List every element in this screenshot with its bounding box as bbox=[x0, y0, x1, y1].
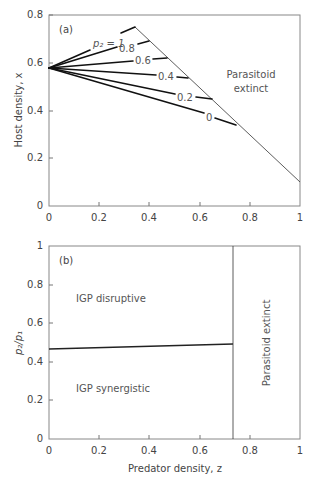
fan-lines bbox=[49, 27, 236, 125]
plot-frame-a bbox=[49, 15, 300, 206]
y-tick-label: 0 bbox=[37, 200, 43, 211]
region-label-parasitoid-extinct-a: extinct bbox=[234, 83, 268, 94]
panel-b: 1 0.8 0.6 0.4 0.2 0 0 0.2 0.4 0.6 0.8 1 … bbox=[13, 240, 303, 474]
y-tick-label: 0.2 bbox=[27, 394, 43, 405]
extinction-boundary-line bbox=[135, 27, 300, 182]
x-tick-label: 0.8 bbox=[242, 212, 258, 223]
line-p2-0.6 bbox=[153, 58, 167, 59]
line-p2-0.4 bbox=[177, 77, 188, 78]
panel-label-b: (b) bbox=[59, 255, 73, 266]
x-tick-label: 0.2 bbox=[91, 212, 107, 223]
x-tick-label: 0.2 bbox=[91, 445, 107, 456]
figure: 0.8 0.6 0.4 0.2 0 0 0.2 0.4 0.6 0.8 1 Ho… bbox=[0, 0, 316, 483]
igp-boundary-line bbox=[49, 344, 233, 349]
x-tick-label: 0.4 bbox=[141, 445, 157, 456]
y-tick-label: 0.4 bbox=[27, 105, 43, 116]
x-axis-b: 0 0.2 0.4 0.6 0.8 1 bbox=[46, 435, 303, 456]
x-tick-label: 0.8 bbox=[242, 445, 258, 456]
x-tick-label: 1 bbox=[297, 445, 303, 456]
fan-label-0.2: 0.2 bbox=[177, 92, 193, 103]
y-axis-title-a: Host density, x bbox=[13, 72, 24, 147]
x-tick-label: 0.6 bbox=[192, 212, 208, 223]
fan-label-0.6: 0.6 bbox=[135, 55, 151, 66]
region-label-igp-disruptive: IGP disruptive bbox=[76, 293, 146, 304]
fan-label-0: 0 bbox=[206, 112, 212, 123]
region-label-parasitoid-extinct-a: Parasitoid bbox=[226, 69, 275, 80]
region-label-igp-synergistic: IGP synergistic bbox=[76, 383, 150, 394]
y-axis-title-b: p₂/p₁ bbox=[13, 331, 24, 356]
region-label-parasitoid-extinct-b: Parasitoid extinct bbox=[261, 300, 272, 387]
line-p2-0 bbox=[49, 68, 204, 113]
y-tick-label: 0.4 bbox=[27, 356, 43, 367]
line-p2-0.8 bbox=[138, 41, 149, 44]
x-tick-label: 0 bbox=[46, 212, 52, 223]
y-tick-label: 0.8 bbox=[27, 279, 43, 290]
y-tick-label: 0.6 bbox=[27, 57, 43, 68]
x-axis-title-b: Predator density, z bbox=[128, 463, 222, 474]
y-tick-label: 0 bbox=[37, 433, 43, 444]
x-tick-label: 0.6 bbox=[192, 445, 208, 456]
y-tick-label: 0.6 bbox=[27, 317, 43, 328]
panel-a: 0.8 0.6 0.4 0.2 0 0 0.2 0.4 0.6 0.8 1 Ho… bbox=[13, 9, 303, 223]
y-tick-label: 0.2 bbox=[27, 152, 43, 163]
x-tick-label: 1 bbox=[297, 212, 303, 223]
x-tick-label: 0.4 bbox=[141, 212, 157, 223]
panel-label-a: (a) bbox=[59, 24, 73, 35]
y-tick-label: 0.8 bbox=[27, 9, 43, 20]
fan-label-0.8: 0.8 bbox=[119, 43, 135, 54]
y-tick-label: 1 bbox=[37, 240, 43, 251]
x-tick-label: 0 bbox=[46, 445, 52, 456]
x-axis-a: 0 0.2 0.4 0.6 0.8 1 bbox=[46, 202, 303, 223]
line-p2-1 bbox=[121, 27, 135, 33]
fan-label-0.4: 0.4 bbox=[158, 71, 174, 82]
